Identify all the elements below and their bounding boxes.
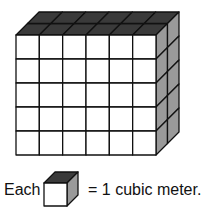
- front-face-cell: [16, 35, 39, 59]
- front-face-cell: [109, 83, 132, 107]
- front-face-cell: [109, 107, 132, 131]
- front-face-cell: [39, 59, 62, 83]
- front-face-cell: [63, 35, 86, 59]
- front-face-cell: [63, 59, 86, 83]
- front-face-cell: [133, 107, 156, 131]
- front-face-cell: [63, 131, 86, 155]
- front-face-cell: [109, 59, 132, 83]
- front-face-cell: [63, 83, 86, 107]
- front-face-cell: [16, 107, 39, 131]
- front-face-cell: [63, 107, 86, 131]
- front-face-cell: [133, 83, 156, 107]
- front-face-cell: [86, 83, 109, 107]
- front-face-cell: [109, 35, 132, 59]
- front-face-cell: [109, 131, 132, 155]
- front-face-cell: [86, 131, 109, 155]
- front-face-cell: [39, 131, 62, 155]
- front-face-cell: [16, 59, 39, 83]
- front-face-cell: [39, 107, 62, 131]
- cube-prism-diagram: [0, 0, 207, 211]
- front-face-cell: [133, 35, 156, 59]
- legend-prefix: Each: [4, 182, 40, 198]
- front-face-cell: [39, 35, 62, 59]
- front-face-cell: [86, 59, 109, 83]
- front-face-cell: [16, 131, 39, 155]
- front-face-cell: [86, 35, 109, 59]
- unit-cube-front: [44, 183, 67, 206]
- front-face-cell: [86, 107, 109, 131]
- front-face-cell: [133, 59, 156, 83]
- front-face-cell: [16, 83, 39, 107]
- front-face-cell: [39, 83, 62, 107]
- front-face-cell: [133, 131, 156, 155]
- legend-suffix: = 1 cubic meter.: [88, 182, 201, 198]
